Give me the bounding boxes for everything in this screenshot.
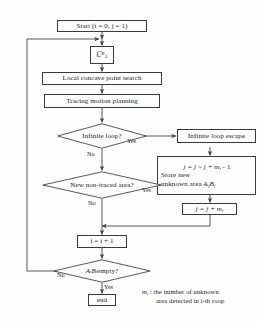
edge-label-infinite-loop-yes: Yes (127, 137, 136, 144)
node-end[interactable]: end (88, 294, 116, 306)
edge-label-new-untraced-yes: Yes (142, 186, 151, 193)
node-new-non-traced-area-question[interactable]: New non-traced area? (42, 171, 162, 199)
edge-label-new-untraced-no: No (88, 199, 96, 206)
node-infinite-loop-escape[interactable]: Infinite loop escape (177, 129, 256, 143)
node-start-label: Start (i = 0, j = 1) (77, 22, 128, 30)
node-increment-j[interactable]: j = j + mi (182, 203, 237, 215)
edge-label-empty-no: No (57, 271, 65, 278)
node-store-unknown-area[interactable]: j = j ~ j + mi - 1 Store new unknown are… (157, 156, 256, 195)
node-area-empty-question[interactable]: AiBi empty? (53, 259, 151, 283)
node-area-empty-question-label: AiBi empty? (53, 259, 151, 283)
edge-label-infinite-loop-no: No (87, 150, 95, 157)
edge-label-empty-yes: Yes (104, 283, 113, 290)
flowchart-canvas: Start (i = 0, j = 1) CBA Local concave p… (0, 0, 260, 323)
node-increment-i[interactable]: i = i + 1 (77, 235, 127, 248)
legend-note: mi : the number of unknown area detected… (142, 288, 225, 306)
node-increment-i-label: i = i + 1 (90, 237, 113, 245)
node-local-concave-point-search-label: Local concave point search (63, 74, 142, 82)
node-new-non-traced-area-question-label: New non-traced area? (42, 171, 162, 199)
node-end-label: end (97, 296, 107, 304)
node-start[interactable]: Start (i = 0, j = 1) (57, 20, 147, 32)
node-local-concave-point-search[interactable]: Local concave point search (42, 72, 162, 85)
node-boundary-symbol-label: CBA (97, 51, 108, 60)
node-store-unknown-area-line2: Store new (161, 171, 253, 179)
node-tracing-motion-planning[interactable]: Tracing motion planning (44, 94, 160, 108)
node-store-unknown-area-line3: unknown area AjBj (161, 180, 253, 188)
node-store-unknown-area-equation: j = j ~ j + mi - 1 (161, 163, 253, 171)
node-tracing-motion-planning-label: Tracing motion planning (66, 97, 138, 105)
node-increment-j-label: j = j + mi (196, 205, 224, 213)
legend-line-2: area detected in i-th roop (142, 297, 225, 306)
node-infinite-loop-question[interactable]: Infinite loop? (57, 123, 147, 149)
node-infinite-loop-question-label: Infinite loop? (57, 123, 147, 149)
node-infinite-loop-escape-label: Infinite loop escape (188, 132, 245, 140)
node-boundary-symbol[interactable]: CBA (90, 46, 114, 64)
legend-line-1: mi : the number of unknown (142, 288, 225, 297)
